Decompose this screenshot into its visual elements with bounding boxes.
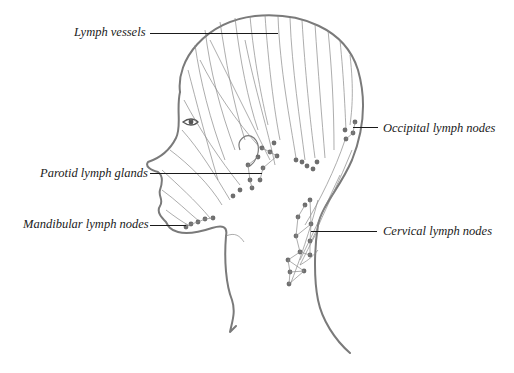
leader-cervical-lymph-nodes	[311, 231, 377, 232]
label-mandibular-lymph-nodes: Mandibular lymph nodes	[23, 217, 149, 231]
label-cervical-lymph-nodes: Cervical lymph nodes	[383, 224, 492, 238]
parotid-lymph-glands	[231, 141, 320, 199]
leader-occipital-lymph-nodes	[353, 127, 378, 128]
label-occipital-lymph-nodes: Occipital lymph nodes	[383, 121, 495, 135]
label-lymph-vessels: Lymph vessels	[74, 25, 146, 39]
leader-lymph-vessels	[150, 33, 278, 34]
mandibular-lymph-nodes	[184, 216, 216, 230]
lymph-diagram: Lymph vessels Occipital lymph nodes Paro…	[0, 0, 514, 373]
leader-parotid-lymph-glands	[150, 173, 262, 174]
leader-mandibular-lymph-nodes	[150, 225, 186, 226]
lymph-vessels	[162, 15, 352, 285]
head-illustration	[0, 0, 514, 373]
eye-icon	[183, 119, 198, 125]
label-parotid-lymph-glands: Parotid lymph glands	[40, 166, 148, 180]
ear	[239, 136, 258, 166]
